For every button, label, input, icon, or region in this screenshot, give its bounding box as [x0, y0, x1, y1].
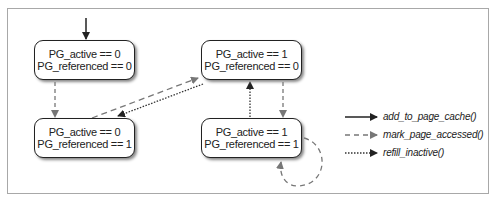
state-active-label: PG_active == 1 [216, 48, 288, 60]
state-active-label: PG_active == 1 [216, 126, 288, 138]
state-active-unreferenced: PG_active == 1 PG_referenced == 0 [201, 40, 302, 80]
state-referenced-label: PG_referenced == 1 [37, 138, 131, 150]
state-active-label: PG_active == 0 [49, 48, 121, 60]
state-active-referenced: PG_active == 1 PG_referenced == 1 [201, 118, 302, 158]
state-active-label: PG_active == 0 [49, 126, 121, 138]
state-inactive-referenced: PG_active == 0 PG_referenced == 1 [34, 118, 135, 158]
transition-arrows [0, 0, 496, 202]
legend-add-to-page-cache: add_to_page_cache() [383, 111, 477, 122]
state-referenced-label: PG_referenced == 0 [204, 60, 298, 72]
state-referenced-label: PG_referenced == 0 [37, 60, 131, 72]
state-referenced-label: PG_referenced == 1 [204, 138, 298, 150]
legend-refill-inactive: refill_inactive() [383, 147, 444, 158]
state-inactive-unreferenced: PG_active == 0 PG_referenced == 0 [34, 40, 135, 80]
legend-mark-page-accessed: mark_page_accessed() [383, 129, 484, 140]
